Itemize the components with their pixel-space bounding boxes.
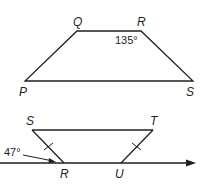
angle-pointer-arrow-icon bbox=[49, 158, 57, 163]
trapezoid-pqrs-outline bbox=[25, 31, 193, 81]
geometry-diagram: Q R P S 135° 47° S T R U bbox=[0, 0, 206, 194]
vertex-label-r2: R bbox=[60, 167, 69, 181]
vertex-label-t: T bbox=[150, 114, 159, 128]
vertex-label-s2: S bbox=[26, 114, 34, 128]
trapezoid-pqrs: Q R P S 135° bbox=[19, 15, 194, 99]
angle-label-47: 47° bbox=[4, 146, 21, 158]
vertex-label-r: R bbox=[137, 15, 146, 29]
trapezoid-stur: 47° S T R U bbox=[0, 114, 196, 181]
vertex-label-s: S bbox=[186, 85, 194, 99]
angle-label-135: 135° bbox=[115, 34, 138, 46]
angle-pointer-line bbox=[23, 155, 53, 161]
vertex-label-p: P bbox=[19, 85, 27, 99]
vertex-label-q: Q bbox=[73, 15, 82, 29]
vertex-label-u: U bbox=[115, 167, 124, 181]
ray-arrowhead-icon bbox=[186, 160, 196, 167]
